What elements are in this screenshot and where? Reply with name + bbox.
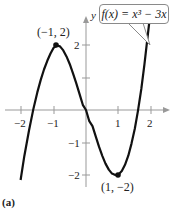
graph-canvas: −2 −1 1 2 2 −1 −2 y (−1, 2) (1, −2): [0, 0, 172, 215]
local-max-label: (−1, 2): [37, 25, 70, 39]
y-axis: [83, 16, 89, 187]
x-tick-label: 1: [115, 117, 121, 129]
figure-label: (a): [2, 196, 15, 208]
callout-pointer: [128, 23, 150, 45]
x-axis-arrow-icon: [163, 107, 170, 113]
local-min-label: (1, −2): [101, 180, 134, 194]
y-tick-label: −2: [68, 169, 80, 181]
function-equation-callout: f(x) = x³ − 3x: [99, 4, 169, 24]
local-min-point: [115, 172, 121, 178]
x-tick-label: 2: [147, 117, 153, 129]
y-tick-label: 2: [74, 39, 80, 51]
y-axis-arrow-icon: [83, 16, 89, 23]
y-tick-label: −1: [68, 137, 80, 149]
function-curve: [21, 16, 150, 180]
x-tick-label: −1: [47, 117, 59, 129]
y-axis-label: y: [90, 9, 96, 21]
local-max-point: [53, 42, 59, 48]
x-tick-label: −2: [14, 117, 26, 129]
